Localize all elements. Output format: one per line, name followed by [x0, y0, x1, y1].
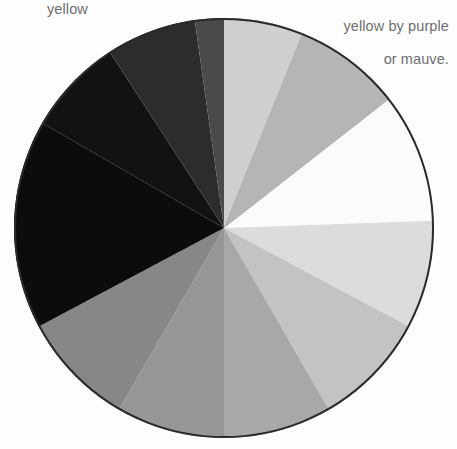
caption-right-line1: yellow by purple — [343, 18, 449, 34]
caption-right: yellow by purple or mauve. — [327, 1, 449, 100]
caption-right-line2: or mauve. — [327, 51, 449, 68]
caption-left: yellow — [47, 1, 88, 18]
page-root: yellow yellow by purple or mauve. — [0, 0, 457, 449]
